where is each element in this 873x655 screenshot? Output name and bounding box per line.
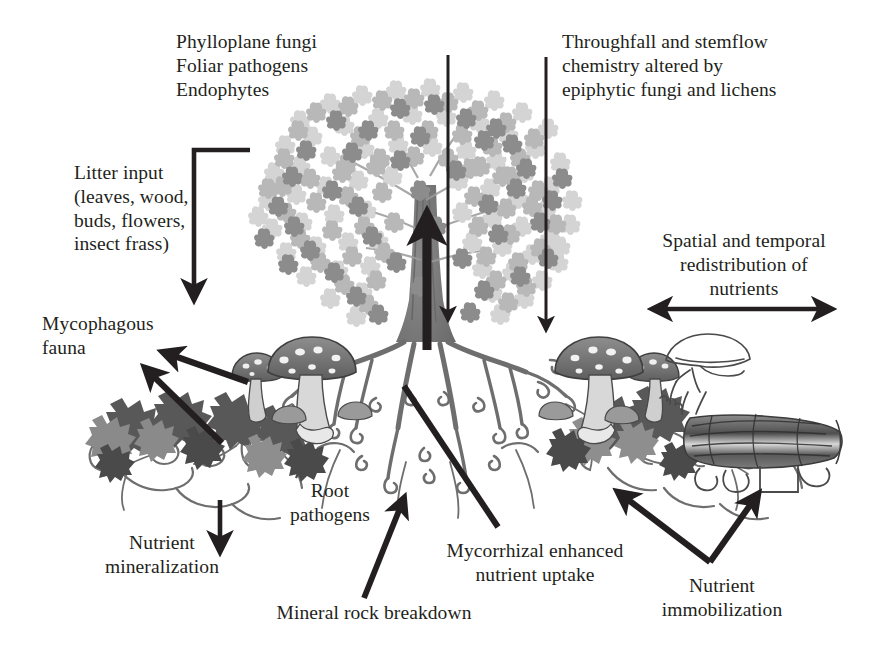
- leaf-litter-left: [85, 390, 225, 483]
- label-mycophagous-fauna: Mycophagous fauna: [42, 312, 154, 360]
- label-nutrient-immobilization: Nutrient immobilization: [634, 574, 810, 622]
- label-mineral-rock-breakdown: Mineral rock breakdown: [258, 601, 490, 625]
- label-nutrient-mineralization: Nutrient mineralization: [72, 531, 252, 579]
- figure-canvas: Phylloplane fungi Foliar pathogens Endop…: [0, 0, 873, 655]
- label-mycorrhizal-uptake: Mycorrhizal enhanced nutrient uptake: [424, 539, 646, 587]
- fallen-log: [684, 414, 842, 492]
- label-canopy-fungi: Phylloplane fungi Foliar pathogens Endop…: [176, 30, 317, 101]
- label-spatial-redistribution: Spatial and temporal redistribution of n…: [636, 229, 852, 300]
- label-root-pathogens: Root pathogens: [272, 479, 388, 527]
- label-litter-input: Litter input (leaves, wood, buds, flower…: [74, 161, 189, 256]
- label-throughfall-stemflow: Throughfall and stemflow chemistry alter…: [562, 30, 776, 101]
